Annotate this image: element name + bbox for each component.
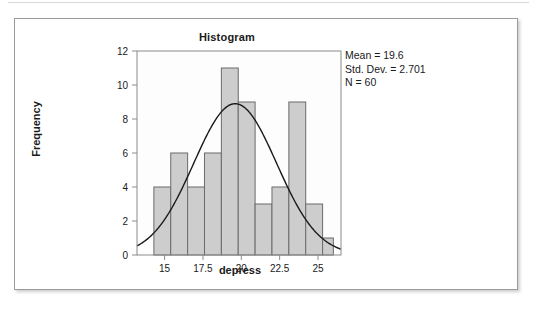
x-tick-label: 15	[159, 263, 171, 274]
y-tick-label: 0	[122, 250, 128, 261]
histogram-bar	[255, 204, 272, 255]
histogram-bar	[204, 153, 221, 255]
histogram-bar	[221, 68, 238, 255]
histogram-bar	[289, 102, 306, 255]
histogram-bar	[188, 187, 205, 255]
x-tick-label: 20	[236, 263, 248, 274]
figure-card: Histogram Mean = 19.6 Std. Dev. = 2.701 …	[14, 18, 518, 290]
y-tick-label: 2	[122, 216, 128, 227]
histogram-bar	[272, 187, 289, 255]
plot-svg: 0246810121517.52022.525	[15, 19, 519, 291]
y-tick-label: 12	[117, 46, 129, 57]
histogram-bar	[238, 102, 255, 255]
x-tick-label: 25	[312, 263, 324, 274]
page-top-divider	[8, 2, 529, 3]
x-tick-label: 17.5	[193, 263, 213, 274]
y-tick-label: 10	[117, 80, 129, 91]
histogram-bar	[154, 187, 171, 255]
y-tick-label: 6	[122, 148, 128, 159]
y-tick-label: 8	[122, 114, 128, 125]
histogram-chart: Histogram Mean = 19.6 Std. Dev. = 2.701 …	[15, 19, 519, 291]
x-tick-label: 22.5	[270, 263, 290, 274]
y-tick-label: 4	[122, 182, 128, 193]
